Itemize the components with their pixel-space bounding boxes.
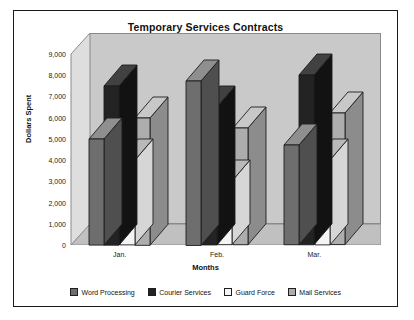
y-axis-tick-label: 4,000	[36, 157, 66, 164]
chart-page-frame: Temporary Services Contracts Dollars Spe…	[13, 10, 398, 307]
legend-item-mail-services[interactable]: Mail Services	[288, 288, 341, 296]
y-axis-tick-label: 3,000	[36, 178, 66, 185]
y-axis-tick-labels: 9,0008,0007,0006,0005,0004,0003,0002,000…	[36, 11, 66, 306]
y-axis-tick-label: 8,000	[36, 72, 66, 79]
legend-label: Guard Force	[236, 289, 275, 296]
legend-swatch-icon	[70, 288, 78, 296]
legend-swatch-icon	[224, 288, 232, 296]
x-axis-tick-label: Mar.	[308, 251, 322, 258]
y-axis-tick-label: 1,000	[36, 220, 66, 227]
y-axis-tick-label: 9,000	[36, 51, 66, 58]
x-axis-tick-label: Feb.	[210, 251, 224, 258]
chart-title: Temporary Services Contracts	[14, 21, 397, 33]
plot-area	[71, 33, 381, 245]
y-axis-title: Dollars Spent	[24, 95, 33, 143]
y-axis-tick-label: 7,000	[36, 93, 66, 100]
x-axis-tick-label: Jan.	[113, 251, 126, 258]
y-axis-tick-label: 2,000	[36, 199, 66, 206]
y-axis-tick-label: 6,000	[36, 114, 66, 121]
chart-legend: Word ProcessingCourier ServicesGuard For…	[14, 288, 397, 296]
y-axis-tick-label: 5,000	[36, 135, 66, 142]
bar-word-processing-feb[interactable]	[186, 81, 201, 245]
legend-label: Mail Services	[299, 289, 341, 296]
y-axis-tick-label: 0	[36, 242, 66, 249]
legend-item-courier-services[interactable]: Courier Services	[148, 288, 211, 296]
legend-label: Word Processing	[82, 289, 135, 296]
plot-left-wall	[71, 33, 90, 245]
legend-item-guard-force[interactable]: Guard Force	[224, 288, 275, 296]
legend-item-word-processing[interactable]: Word Processing	[70, 288, 135, 296]
bar-shape	[284, 124, 317, 245]
bar-shape	[89, 118, 122, 245]
legend-swatch-icon	[148, 288, 156, 296]
bar-word-processing-mar[interactable]	[284, 145, 299, 245]
bar-shape	[186, 60, 219, 245]
x-axis-title: Months	[14, 263, 397, 272]
bar-word-processing-jan[interactable]	[89, 139, 104, 245]
legend-label: Courier Services	[159, 289, 211, 296]
legend-swatch-icon	[288, 288, 296, 296]
